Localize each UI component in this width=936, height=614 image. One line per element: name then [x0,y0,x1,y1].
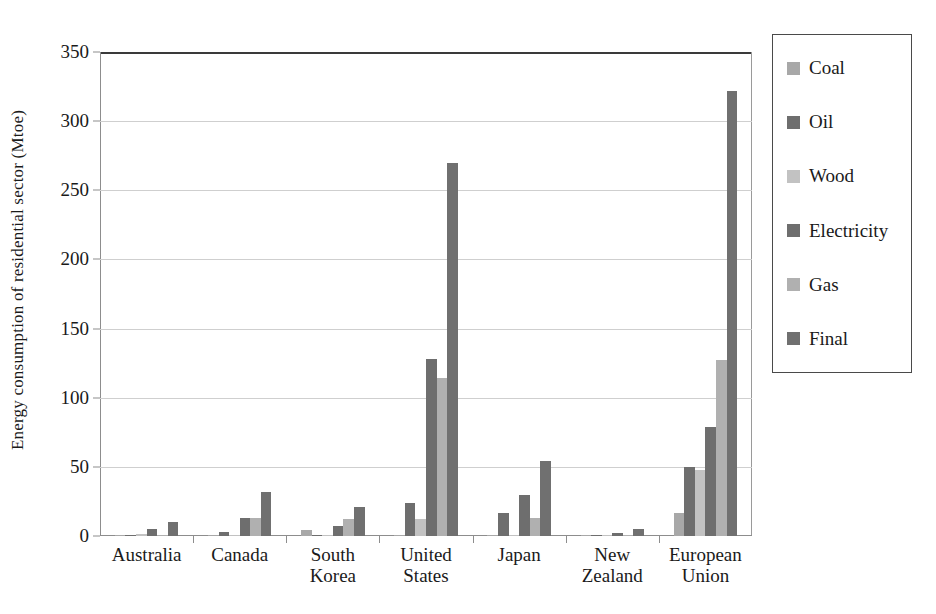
y-axis-tick-mark [93,190,100,191]
bar-group-bars [659,52,752,536]
bar[interactable] [250,518,261,536]
bar[interactable] [157,535,168,536]
legend-item-coal[interactable]: Coal [787,57,911,79]
legend-swatch-icon [787,116,800,129]
bar[interactable] [498,513,509,537]
bar[interactable] [727,91,738,536]
legend-item-electricity[interactable]: Electricity [787,220,911,242]
bar[interactable] [415,519,426,536]
bar[interactable] [602,535,613,536]
bar[interactable] [394,535,405,536]
bar[interactable] [261,492,272,536]
y-axis-tick-label: 50 [70,456,89,478]
bar[interactable] [136,534,147,536]
legend: CoalOilWoodElectricityGasFinal [772,34,912,373]
bar[interactable] [540,461,551,536]
bar[interactable] [229,535,240,536]
legend-swatch-icon [787,170,800,183]
bar[interactable] [219,532,230,536]
legend-item-label: Final [809,328,848,350]
legend-item-label: Oil [809,111,833,133]
bar[interactable] [125,535,136,536]
legend-swatch-icon [787,332,800,345]
x-axis-category-label: NewZealand [566,544,659,587]
bar-group: Japan [473,52,566,536]
y-axis-tick-mark [93,52,100,53]
bar-group-bars [286,52,379,536]
y-axis-tick-label: 100 [61,387,90,409]
legend-swatch-icon [787,278,800,291]
bar[interactable] [426,359,437,536]
y-axis-tick-mark [93,466,100,467]
legend-item-oil[interactable]: Oil [787,111,911,133]
bar[interactable] [301,530,312,536]
bar[interactable] [312,535,323,536]
y-axis-tick-label: 250 [61,179,90,201]
bar[interactable] [519,495,530,536]
y-axis-tick-label: 0 [80,525,90,547]
bar[interactable] [684,467,695,536]
x-axis-tick-mark [379,536,380,543]
bar[interactable] [530,518,541,536]
x-axis-tick-mark [473,536,474,543]
bar[interactable] [343,519,354,536]
bar[interactable] [633,529,644,536]
y-axis-title: Energy consumption of residential sector… [0,0,36,560]
bar[interactable] [581,535,592,536]
x-axis-category-label: Canada [193,544,286,565]
bar-group: NewZealand [566,52,659,536]
legend-item-label: Wood [809,165,854,187]
bar[interactable] [674,513,685,537]
x-axis-tick-mark [193,536,194,543]
bar-group: EuropeanUnion [659,52,752,536]
bar[interactable] [487,535,498,536]
bar-group-bars [566,52,659,536]
bar[interactable] [405,503,416,536]
x-axis-category-label: Australia [100,544,193,565]
bar[interactable] [333,526,344,536]
bar[interactable] [509,535,520,536]
legend-item-final[interactable]: Final [787,328,911,350]
bar[interactable] [240,518,251,536]
bar[interactable] [354,507,365,536]
x-axis-tick-mark [659,536,660,543]
bar-group: UnitedStates [379,52,472,536]
bar[interactable] [208,535,219,536]
bar-group-bars [193,52,286,536]
x-axis-tick-mark [566,536,567,543]
bar[interactable] [115,535,126,536]
legend-item-label: Coal [809,57,845,79]
y-axis-tick-label: 200 [61,248,90,270]
bar[interactable] [716,360,727,536]
bar[interactable] [705,427,716,536]
x-axis-category-label: Japan [473,544,566,565]
x-axis-tick-mark [286,536,287,543]
bar-group: Canada [193,52,286,536]
bar[interactable] [591,535,602,536]
bar-group: Australia [100,52,193,536]
bar-group-bars [100,52,193,536]
legend-swatch-icon [787,224,800,237]
bar[interactable] [695,470,706,536]
y-axis-tick-label: 350 [61,41,90,63]
bar[interactable] [147,529,158,536]
y-axis-tick-mark [93,397,100,398]
legend-item-gas[interactable]: Gas [787,274,911,296]
y-axis-tick-mark [93,259,100,260]
bar[interactable] [447,163,458,536]
bar[interactable] [322,535,333,536]
y-axis-tick-label: 150 [61,318,90,340]
legend-item-wood[interactable]: Wood [787,165,911,187]
bar-group-bars [379,52,472,536]
bar[interactable] [612,533,623,536]
bar[interactable] [168,522,179,536]
bar[interactable] [623,535,634,536]
y-axis-tick-label: 300 [61,110,90,132]
x-axis-category-label: EuropeanUnion [659,544,752,587]
legend-item-label: Electricity [809,220,888,242]
y-axis-tick-mark [93,536,100,537]
x-axis-category-label: UnitedStates [379,544,472,587]
bar-group: SouthKorea [286,52,379,536]
plot-area: 050100150200250300350 AustraliaCanadaSou… [100,52,752,536]
bar[interactable] [437,378,448,536]
